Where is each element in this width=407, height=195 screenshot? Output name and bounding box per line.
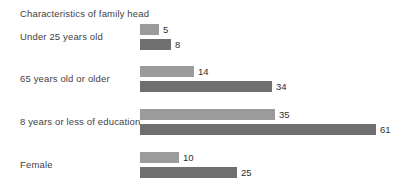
chart-title: Characteristics of family head (20, 8, 149, 19)
bar-value-light: 14 (198, 66, 209, 78)
category-label: 8 years or less of education (20, 116, 140, 128)
category-label: Female (20, 159, 53, 171)
bar-light (140, 152, 179, 163)
category-label: 65 years old or older (20, 73, 110, 85)
bar-light (140, 109, 275, 120)
bar-value-light: 35 (279, 109, 290, 121)
bar-chart: Characteristics of family head Under 25 … (0, 0, 407, 195)
bar-dark (140, 167, 237, 178)
bar-dark (140, 124, 376, 135)
bar-value-light: 10 (183, 152, 194, 164)
bar-value-dark: 25 (241, 167, 252, 179)
plot-area: Under 25 years old 5 8 65 years old or o… (0, 22, 407, 195)
bar-value-light: 5 (163, 24, 168, 36)
bar-group: Under 25 years old 5 8 (0, 22, 407, 52)
category-label: Under 25 years old (20, 31, 103, 43)
bar-dark (140, 39, 171, 50)
bar-value-dark: 8 (175, 39, 180, 51)
bar-light (140, 66, 194, 77)
bar-group: 8 years or less of education 35 61 (0, 107, 407, 137)
bar-light (140, 24, 159, 35)
bar-group: Female 10 25 (0, 150, 407, 180)
bar-value-dark: 34 (276, 81, 287, 93)
bar-group: 65 years old or older 14 34 (0, 64, 407, 94)
bar-value-dark: 61 (380, 124, 391, 136)
bar-dark (140, 81, 272, 92)
